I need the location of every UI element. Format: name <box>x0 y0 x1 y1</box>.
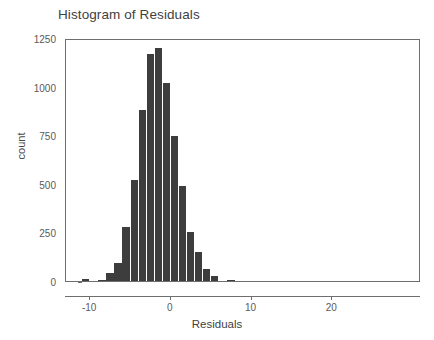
histogram-bar <box>187 232 194 281</box>
histogram-bar <box>163 83 170 281</box>
histogram-bar <box>82 279 89 281</box>
x-tick-label: 20 <box>326 302 337 313</box>
chart-title: Histogram of Residuals <box>58 7 200 22</box>
plot-area <box>65 39 420 282</box>
y-tick-label: 250 <box>39 228 56 239</box>
x-axis-line <box>65 296 420 297</box>
histogram-figure: Histogram of Residuals count 02505007501… <box>0 0 434 340</box>
x-tick-mark <box>89 296 90 300</box>
x-tick-mark <box>170 296 171 300</box>
y-tick-label: 1000 <box>34 82 56 93</box>
bars-layer <box>66 40 419 281</box>
histogram-bar <box>171 136 178 281</box>
histogram-bar <box>227 280 234 281</box>
histogram-bar <box>195 252 202 281</box>
histogram-bar <box>211 276 218 281</box>
y-tick-mark <box>78 282 82 283</box>
histogram-bar <box>122 227 129 281</box>
histogram-bar <box>179 186 186 281</box>
histogram-bar <box>114 263 121 281</box>
histogram-bar <box>139 110 146 281</box>
histogram-bar <box>203 269 210 281</box>
histogram-bar <box>106 273 113 281</box>
histogram-bar <box>131 180 138 281</box>
y-tick-label: 1250 <box>34 34 56 45</box>
x-tick-label: -10 <box>82 302 96 313</box>
histogram-bar <box>155 48 162 281</box>
x-tick-label: 0 <box>167 302 173 313</box>
x-axis-title: Residuals <box>0 318 434 330</box>
y-tick-label: 750 <box>39 131 56 142</box>
y-tick-label: 0 <box>50 277 56 288</box>
y-axis-tick-labels: 025050075010001250 <box>18 0 56 340</box>
x-tick-mark <box>251 296 252 300</box>
histogram-bar <box>147 54 154 281</box>
y-tick-label: 500 <box>39 179 56 190</box>
histogram-bar <box>98 280 105 281</box>
x-tick-label: 10 <box>245 302 256 313</box>
x-tick-mark <box>331 296 332 300</box>
